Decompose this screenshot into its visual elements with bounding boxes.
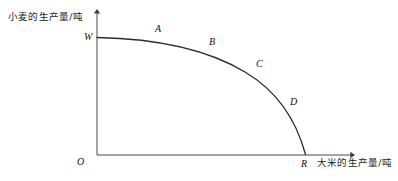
- x-axis-title: 大米的生产量/吨: [317, 158, 392, 168]
- ppf-figure: 小麦的生产量/吨 大米的生产量/吨 W O R A B C D: [0, 0, 398, 181]
- curve-point-label-c: C: [256, 59, 263, 69]
- curve-point-label-a: A: [155, 24, 161, 34]
- origin-label-o: O: [77, 157, 84, 167]
- curve-point-label-b: B: [209, 37, 215, 47]
- y-axis-title: 小麦的生产量/吨: [8, 12, 83, 22]
- y-intercept-label-w: W: [84, 32, 92, 42]
- curve-point-label-d: D: [290, 97, 297, 107]
- x-intercept-label-r: R: [301, 159, 307, 169]
- ppf-curve: [97, 38, 306, 155]
- ppf-plot-svg: [0, 0, 398, 181]
